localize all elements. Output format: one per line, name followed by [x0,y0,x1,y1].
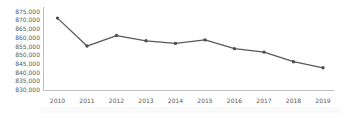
x-axis-tick-label: 2013 [138,97,153,104]
data-point-2012 [115,34,118,37]
x-axis-tick-label: 2014 [168,97,183,104]
data-point-2018 [292,60,295,63]
y-axis-tick-label: 865,000 [15,25,40,32]
line-chart-figure: 875,000870,000865,000860,000855,000850,0… [0,0,350,121]
x-axis-tick-label: 2018 [286,97,301,104]
data-point-2019 [321,66,324,69]
x-axis-tick-label: 2019 [315,97,330,104]
y-axis-tick-label: 870,000 [15,16,40,23]
data-point-2011 [85,44,88,47]
y-axis-tick-label: 845,000 [15,60,40,67]
data-point-2010 [56,16,59,19]
data-point-2014 [174,42,177,45]
y-axis-tick-label: 860,000 [15,34,40,41]
data-point-2017 [262,50,265,53]
data-point-2015 [203,38,206,41]
y-axis-tick-label: 850,000 [15,51,40,58]
data-point-2013 [144,39,147,42]
x-axis-tick-label: 2017 [256,97,271,104]
y-axis-tick-label: 855,000 [15,43,40,50]
line-chart: 875,000870,000865,000860,000855,000850,0… [0,0,350,121]
x-axis-tick-label: 2010 [50,97,65,104]
x-axis-tick-label: 2011 [79,97,94,104]
data-point-2016 [233,47,236,50]
x-axis-tick-label: 2016 [227,97,242,104]
data-line [58,18,324,68]
y-axis-tick-label: 835,000 [15,77,40,84]
y-axis-tick-label: 840,000 [15,69,40,76]
faint-artifact-band [40,107,340,113]
y-axis-tick-label: 830,000 [15,86,40,93]
x-axis-tick-label: 2015 [197,97,212,104]
y-axis-tick-label: 875,000 [15,8,40,15]
x-axis-tick-label: 2012 [109,97,124,104]
